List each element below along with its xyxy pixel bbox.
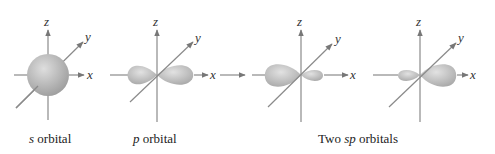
z-label: z [152, 14, 158, 29]
sp-orbital-small-lobe [398, 70, 420, 81]
p-orbital-left-lobe [128, 66, 158, 85]
z-label: z [415, 14, 421, 29]
sp-orbital-large-lobe [420, 64, 456, 86]
y-label: y [333, 31, 341, 46]
x-label: x [349, 67, 356, 82]
y-label: y [83, 29, 91, 44]
y-label: y [193, 30, 201, 45]
y-label: y [456, 30, 464, 45]
s-orbital-panel: z y x s orbital [14, 14, 93, 146]
sp-orbital-2-panel: z y x [373, 14, 476, 122]
p-orbital-caption: p orbital [132, 131, 177, 146]
x-label: x [469, 67, 476, 82]
z-label: z [43, 14, 49, 29]
sp-orbital-large-lobe [265, 64, 301, 86]
x-label: x [86, 67, 93, 82]
orbital-diagram: z y x s orbital z y x p orbital z y x [0, 0, 495, 154]
z-label: z [296, 14, 302, 29]
sp-orbital-1-panel: z y x [252, 14, 356, 122]
s-orbital-sphere [27, 54, 69, 96]
x-label: x [209, 67, 216, 82]
y-axis-front [16, 86, 38, 108]
p-orbital-right-lobe [157, 65, 193, 84]
s-orbital-caption: s orbital [29, 131, 72, 146]
sp-orbitals-caption: Two sp orbitals [318, 131, 398, 146]
p-orbital-panel: z y x p orbital [110, 14, 216, 146]
